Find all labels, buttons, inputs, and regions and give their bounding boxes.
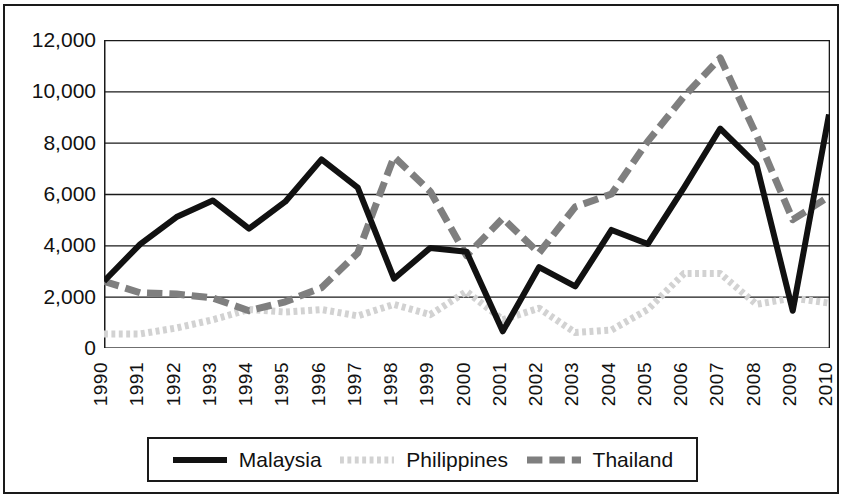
x-axis-tick-label: 1997 (345, 362, 371, 406)
x-axis-tick-label: 1993 (200, 362, 226, 406)
line-chart-svg (104, 40, 830, 348)
plot-area (104, 40, 830, 348)
x-axis-tick-label: 1996 (309, 362, 335, 406)
x-axis-tick-label: 1992 (164, 362, 190, 406)
legend-item-malaysia[interactable]: Malaysia (172, 448, 322, 472)
x-axis-tick-label: 2007 (707, 362, 733, 406)
legend-label: Thailand (593, 448, 674, 472)
legend-label: Philippines (406, 448, 508, 472)
x-axis-tick-label: 1991 (127, 362, 153, 406)
x-axis-tick-label: 2009 (780, 362, 806, 406)
legend-label: Malaysia (239, 448, 322, 472)
x-axis-tick-label: 1990 (91, 362, 117, 406)
legend-swatch-solid (172, 453, 228, 467)
x-axis-tick-label: 2003 (562, 362, 588, 406)
legend-item-philippines[interactable]: Philippines (339, 448, 508, 472)
x-axis-tick-label: 1999 (417, 362, 443, 406)
legend-item-thailand[interactable]: Thailand (526, 448, 674, 472)
x-axis-tick-label: 2010 (816, 362, 842, 406)
legend-swatch-dotted (339, 453, 395, 467)
x-axis-tick-label: 2001 (490, 362, 516, 406)
x-axis-tick-label: 2000 (454, 362, 480, 406)
x-axis-tick-label: 2004 (599, 362, 625, 406)
x-axis-tick-label: 2002 (526, 362, 552, 406)
x-axis-tick-label: 1998 (381, 362, 407, 406)
x-axis-tick-label: 1994 (236, 362, 262, 406)
series-line-malaysia (104, 114, 829, 331)
x-axis-tick-label: 2008 (744, 362, 770, 406)
x-axis-tick-label: 1995 (272, 362, 298, 406)
legend-swatch-dashed (526, 453, 582, 467)
chart-legend: MalaysiaPhilippinesThailand (147, 437, 698, 482)
x-axis-tick-label: 2005 (635, 362, 661, 406)
chart-figure: 02,0004,0006,0008,00010,00012,000 199019… (0, 0, 844, 500)
x-axis-tick-label: 2006 (671, 362, 697, 406)
series-line-philippines (104, 274, 829, 334)
